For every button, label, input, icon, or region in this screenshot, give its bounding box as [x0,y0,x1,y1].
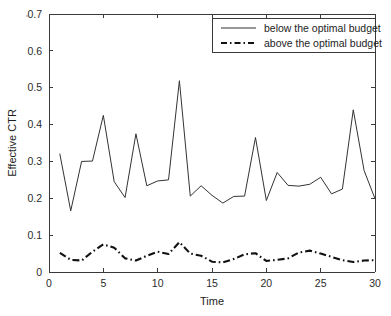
x-tick-label: 30 [369,277,381,289]
legend-label-2: above the optimal budget [264,37,382,49]
x-tick-label: 5 [100,277,106,289]
x-axis-title: Time [200,295,224,307]
y-tick-label: 0.3 [27,155,42,167]
y-tick-label: 0 [36,266,42,278]
legend-label-1: below the optimal budget [264,22,381,34]
y-tick-label: 0.5 [27,81,42,93]
y-tick-label: 0.4 [27,118,42,130]
chart-canvas: 00.10.20.30.40.50.60.7051015202530TimeEf… [0,0,391,316]
y-tick-label: 0.2 [27,192,42,204]
x-tick-label: 0 [46,277,52,289]
chart-figure: 00.10.20.30.40.50.60.7051015202530TimeEf… [0,0,391,316]
x-tick-label: 20 [260,277,272,289]
x-tick-label: 25 [315,277,327,289]
x-tick-label: 10 [152,277,164,289]
x-tick-label: 15 [206,277,218,289]
y-tick-label: 0.7 [27,8,42,20]
y-tick-label: 0.1 [27,229,42,241]
y-axis-title: Effective CTR [6,109,18,177]
y-tick-label: 0.6 [27,45,42,57]
